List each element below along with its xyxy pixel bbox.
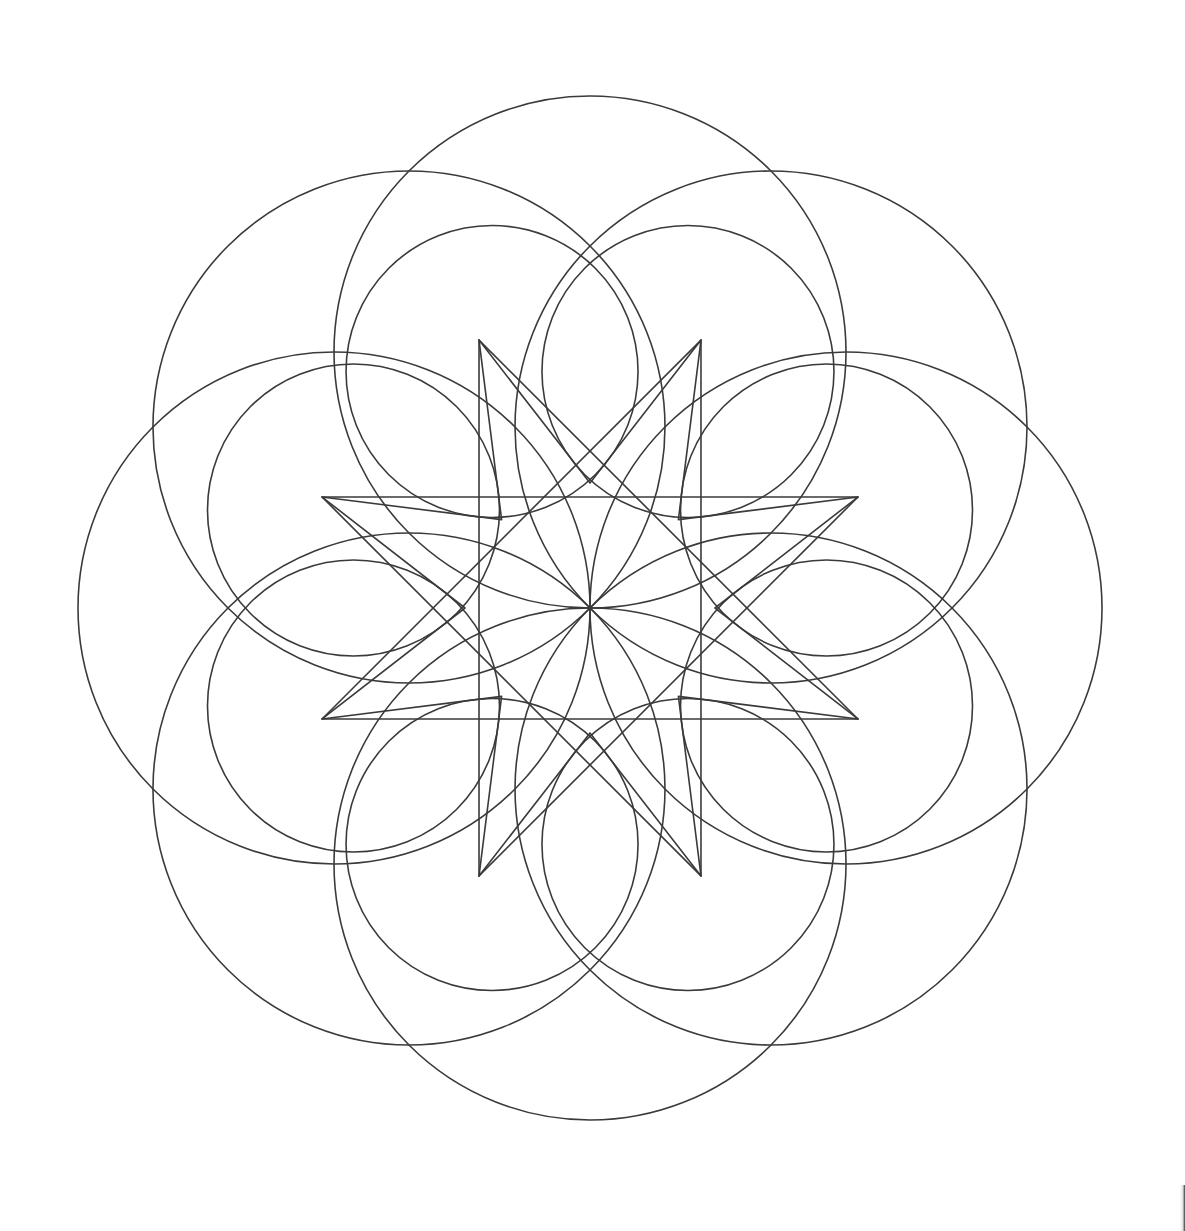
geometric-rosette-figure: [0, 0, 1185, 1231]
outer-petal-circle: [334, 608, 846, 1120]
inner-petal-circle: [542, 225, 834, 517]
inner-petal-circle: [346, 225, 638, 517]
inner-petal-circle: [346, 699, 638, 991]
outer-petal-circle: [590, 352, 1102, 864]
page-edge-artifact: [1180, 1185, 1185, 1231]
inner-petal-circle: [542, 699, 834, 991]
outer-petal-circle: [334, 96, 846, 608]
drawing-canvas: [0, 0, 1185, 1231]
outer-petal-circle: [78, 352, 590, 864]
outer-circle-ring: [78, 96, 1102, 1120]
inner-petal-circle: [681, 560, 973, 852]
inner-petal-circle: [207, 560, 499, 852]
inner-petal-circle: [207, 364, 499, 656]
inner-petal-circle: [681, 364, 973, 656]
